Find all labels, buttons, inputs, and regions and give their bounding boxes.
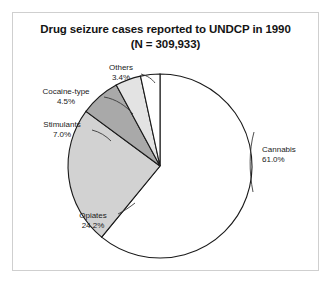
slice-label-opiates-pct: 24.2% (82, 221, 105, 230)
slice-label-others-pct: 3.4% (112, 73, 130, 82)
slice-label-opiates-name: Opiates (79, 211, 107, 220)
slice-label-stimulants-pct: 7.0% (53, 130, 71, 139)
slice-label-others: Others 3.4% (109, 63, 133, 82)
slice-label-stimulants-name: Stimulants (43, 120, 80, 129)
slice-label-cannabis-name: Cannabis (262, 145, 296, 154)
slice-label-cocaine-type: Cocaine-type 4.5% (42, 87, 90, 106)
slice-label-cannabis: Cannabis 61.0% (262, 145, 296, 164)
slice-label-cocaine-type-pct: 4.5% (57, 97, 75, 106)
slice-label-opiates: Opiates 24.2% (79, 211, 107, 230)
pie-slices (68, 74, 252, 258)
pie-chart-figure: Drug seizure cases reported to UNDCP in … (0, 0, 331, 286)
slice-label-cocaine-type-name: Cocaine-type (42, 87, 90, 96)
pie-svg: Others 3.4% Cocaine-type 4.5% Stimulants… (0, 0, 331, 286)
slice-label-others-name: Others (109, 63, 133, 72)
slice-label-cannabis-pct: 61.0% (262, 155, 285, 164)
